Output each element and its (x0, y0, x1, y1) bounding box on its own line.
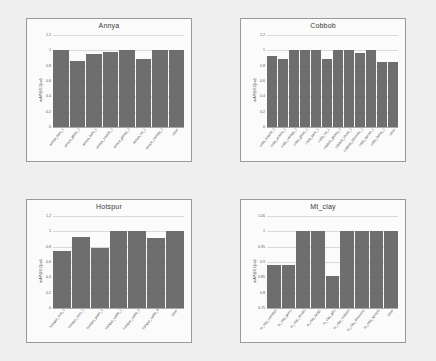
x-axis-tick-label: other (387, 309, 395, 318)
bar (278, 59, 288, 127)
bar (388, 62, 398, 127)
bar (91, 248, 109, 308)
chart-panel-annya: Annya mAP@0.5(val) 00.20.40.60.811.2 ann… (26, 18, 192, 162)
y-axis-tick: 1.2 (260, 33, 265, 37)
bar (166, 231, 184, 308)
x-axis-labels: m_clay_canopy1m_clay_gum1m_clay_shrub1m_… (267, 309, 398, 343)
x-axis-labels: annya_faux_1annya_glitter_1annya_bark_1a… (53, 128, 184, 162)
y-axis-tick: 0.8 (260, 291, 265, 295)
x-axis-tick-slot: other (166, 309, 184, 343)
bar (70, 61, 86, 127)
bar-series (267, 216, 398, 308)
bar (119, 50, 135, 127)
y-axis-tick: 0.9 (260, 260, 265, 264)
y-axis-tick: 0.2 (46, 291, 51, 295)
x-axis-tick-slot: m_clay_sprout1 (370, 309, 384, 343)
y-axis-tick: 0.8 (46, 64, 51, 68)
y-axis-tick: 1 (263, 48, 265, 52)
y-axis-tick: 1.05 (258, 214, 265, 218)
chart-title: Mt_clay (241, 203, 405, 210)
bar (311, 231, 325, 308)
bar (344, 50, 354, 127)
x-axis-tick-slot: cobb_fauna_1 (377, 128, 387, 162)
chart-panel-hotspur: Hotspur mAP@0.5(val) 00.20.40.60.811.2 h… (26, 199, 192, 343)
chart-title: Cobbob (241, 22, 405, 29)
x-axis-tick-slot: m_clay_fung1 (311, 309, 325, 343)
y-axis-tick: 0 (49, 306, 51, 310)
bar (282, 265, 296, 308)
panel-cell-hotspur: Hotspur mAP@0.5(val) 00.20.40.60.811.2 h… (0, 181, 218, 361)
y-axis-label: mAP@0.5(val) (253, 78, 257, 101)
y-axis-tick: 0.2 (260, 110, 265, 114)
y-axis-label: mAP@0.5(val) (39, 259, 43, 282)
bar (296, 231, 310, 308)
x-axis-tick-slot: other (384, 309, 398, 343)
y-axis-tick: 0.8 (260, 64, 265, 68)
y-axis-tick: 0.85 (258, 275, 265, 279)
bar (267, 265, 281, 308)
chart-title: Annya (27, 22, 191, 29)
bar (53, 50, 69, 127)
x-axis-tick-slot: other (169, 128, 185, 162)
bar (322, 59, 332, 127)
x-axis-tick-label: other (171, 309, 179, 318)
y-axis-tick: 0 (49, 125, 51, 129)
bar (326, 276, 340, 308)
plot-area: 00.20.40.60.811.2 (53, 216, 184, 308)
bar (340, 231, 354, 308)
bar (103, 52, 119, 127)
bar (86, 54, 102, 127)
bar (384, 231, 398, 308)
bar (366, 50, 376, 127)
bar (128, 231, 146, 308)
bar (136, 59, 152, 127)
bar (152, 50, 168, 127)
plot-area: 00.20.40.60.811.2 (267, 35, 398, 127)
bar (333, 50, 343, 127)
y-axis-tick: 1.2 (46, 214, 51, 218)
bar (311, 50, 321, 127)
x-axis-tick-slot: annya_glossy_1 (119, 128, 135, 162)
y-axis-tick: 0.6 (46, 260, 51, 264)
y-axis-tick: 0.2 (46, 110, 51, 114)
y-axis-tick: 0.4 (46, 275, 51, 279)
x-axis-labels: hotspur_nod_1hotspur_nest_1hotspur_pearl… (53, 309, 184, 343)
y-axis-tick: 1.2 (46, 33, 51, 37)
x-axis-tick-slot: cobb_bark_1 (311, 128, 321, 162)
bar (355, 53, 365, 127)
y-axis-tick: 0.6 (46, 79, 51, 83)
panel-cell-annya: Annya mAP@0.5(val) 00.20.40.60.811.2 ann… (0, 0, 218, 181)
x-axis-labels: cobb_nodule_1cobb_achlea_1cobb_canopy_1c… (267, 128, 398, 162)
plot-area: 00.20.40.60.811.2 (53, 35, 184, 127)
chart-grid: Annya mAP@0.5(val) 00.20.40.60.811.2 ann… (0, 0, 436, 361)
y-axis-label: mAP@0.5(val) (39, 78, 43, 101)
y-axis-label: mAP@0.5(val) (253, 259, 257, 282)
bar (110, 231, 128, 308)
bar (377, 62, 387, 127)
x-axis-tick-label: hotspur_nod_1 (49, 308, 66, 328)
y-axis-tick: 0.95 (258, 245, 265, 249)
chart-panel-mt-clay: Mt_clay mAP@0.5(val) 0.750.80.850.90.951… (240, 199, 406, 343)
bar (147, 238, 165, 308)
x-axis-tick-slot: hotspur_sable_3 (147, 309, 165, 343)
x-axis-tick-label: other (388, 128, 396, 137)
x-axis-tick-slot: other (388, 128, 398, 162)
y-axis-tick: 1 (49, 229, 51, 233)
chart-title: Hotspur (27, 203, 191, 210)
bar-series (53, 35, 184, 127)
chart-panel-cobbob: Cobbob mAP@0.5(val) 00.20.40.60.811.2 co… (240, 18, 406, 162)
y-axis-tick: 0 (263, 125, 265, 129)
bar (267, 56, 277, 127)
y-axis-tick: 0.75 (258, 306, 265, 310)
bar (300, 50, 310, 127)
y-axis-tick: 0.6 (260, 79, 265, 83)
bar (53, 251, 71, 309)
x-axis-tick-slot: annya_canopy_1 (152, 128, 168, 162)
plot-area: 0.750.80.850.90.9511.05 (267, 216, 398, 308)
bar-series (53, 216, 184, 308)
y-axis-tick: 1 (263, 229, 265, 233)
x-axis-tick-label: m_clay_canopy1 (259, 308, 278, 331)
bar (289, 50, 299, 127)
y-axis-tick: 0.4 (46, 94, 51, 98)
x-axis-tick-label: other (172, 128, 180, 137)
